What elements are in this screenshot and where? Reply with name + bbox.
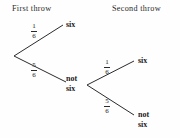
outcome-second-not-six: notsix xyxy=(138,110,149,129)
branch-notsix-to-six xyxy=(87,61,134,85)
probability-first-not-six: 5 6 xyxy=(31,62,37,79)
tree-branch-lines xyxy=(0,0,180,138)
outcome-second-six: six xyxy=(138,56,147,66)
probability-second-not-six: 5 6 xyxy=(104,98,110,115)
fraction-denominator: 6 xyxy=(104,69,110,77)
fraction-denominator: 6 xyxy=(31,33,37,41)
probability-second-six: 1 6 xyxy=(104,59,110,76)
fraction-denominator: 6 xyxy=(104,108,110,116)
outcome-text-line2: six xyxy=(66,84,75,93)
outcome-text-line1: not xyxy=(138,110,149,119)
fraction-numerator: 5 xyxy=(31,62,37,70)
fraction-numerator: 5 xyxy=(104,98,110,106)
fraction-numerator: 1 xyxy=(31,23,37,31)
branch-notsix-to-not-six xyxy=(87,85,134,115)
outcome-first-six: six xyxy=(66,20,75,30)
header-first-throw: First throw xyxy=(12,4,51,13)
outcome-text-line1: not xyxy=(66,74,77,83)
branch-root-to-not-six xyxy=(14,56,66,82)
tree-diagram-canvas: First throw Second throw 1 6 5 6 1 6 5 6… xyxy=(0,0,180,138)
probability-first-six: 1 6 xyxy=(31,23,37,40)
fraction-numerator: 1 xyxy=(104,59,110,67)
branch-root-to-six xyxy=(14,25,63,56)
fraction-denominator: 6 xyxy=(31,72,37,80)
header-second-throw: Second throw xyxy=(112,4,161,13)
outcome-text-line2: six xyxy=(138,120,147,129)
outcome-first-not-six: notsix xyxy=(66,74,77,93)
